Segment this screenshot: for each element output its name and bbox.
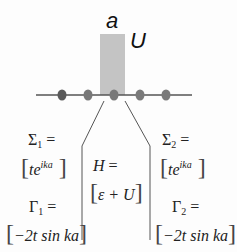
sigma-exponent: ika (180, 159, 192, 170)
gamma2-label: Γ2 = (172, 199, 199, 217)
potential-label: U (130, 30, 146, 52)
sigma-base: te (29, 161, 41, 178)
gamma-symbol: Γ (29, 198, 38, 215)
bracket-close: ] (135, 179, 143, 205)
h-expression: ε + U (98, 186, 135, 203)
sigma-base: te (168, 161, 180, 178)
sigma1-label: Σ1 = (28, 132, 55, 150)
bracket-open: [ (90, 179, 98, 205)
equals: = (186, 198, 199, 215)
bracket-open: [ (155, 220, 163, 246)
sigma-symbol: Σ (162, 131, 171, 148)
gamma-expression: −2t sin ka (163, 227, 228, 244)
sigma-exponent: ika (41, 159, 53, 170)
tight-binding-diagram: a U Σ1 = [teika ] Γ1 = [−2t sin ka] H = … (0, 0, 237, 252)
equals: = (105, 157, 118, 174)
gamma1-label: Γ1 = (29, 199, 56, 217)
bracket-close: ] (79, 220, 87, 246)
gamma2-value: [−2t sin ka] (155, 221, 236, 245)
potential-barrier (100, 34, 125, 95)
site-3 (110, 90, 119, 101)
right-boundary-line (125, 101, 150, 240)
equals: = (43, 198, 56, 215)
equals: = (176, 131, 189, 148)
bracket-open: [ (160, 154, 168, 180)
gamma-symbol: Γ (172, 198, 181, 215)
lattice-constant-label: a (106, 10, 118, 32)
site-2 (84, 90, 93, 101)
sigma-symbol: Σ (28, 131, 37, 148)
hamiltonian-label: H = (93, 158, 118, 174)
sigma2-label: Σ2 = (162, 132, 189, 150)
bracket-open: [ (6, 220, 14, 246)
h-symbol: H (93, 157, 105, 174)
bracket-close: ] (53, 154, 67, 180)
bracket-close: ] (192, 154, 206, 180)
site-1 (58, 90, 67, 101)
site-4 (136, 90, 145, 101)
equals: = (42, 131, 55, 148)
sigma1-value: [teika ] (21, 155, 67, 179)
site-5 (162, 90, 171, 101)
gamma-expression: −2t sin ka (14, 227, 79, 244)
gamma1-value: [−2t sin ka] (6, 221, 87, 245)
bracket-close: ] (228, 220, 236, 246)
bracket-open: [ (21, 154, 29, 180)
sigma2-value: [teika ] (160, 155, 206, 179)
hamiltonian-value: [ε + U] (90, 180, 143, 204)
